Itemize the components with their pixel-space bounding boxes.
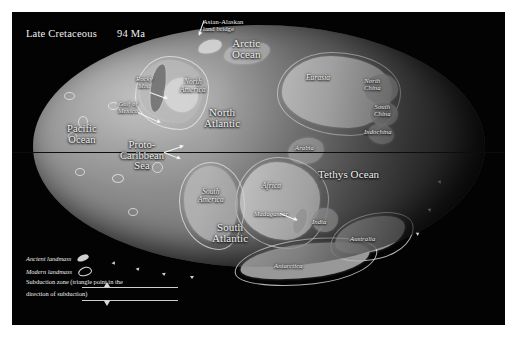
legend-label-subduction-line2: direction of subduction) bbox=[26, 290, 254, 297]
subduction-zone-line-down bbox=[82, 300, 178, 301]
continent-label-antarctica: Antarctica bbox=[274, 263, 303, 270]
island-arc bbox=[128, 208, 138, 216]
continent-label-australia: Australia bbox=[350, 236, 375, 243]
continent-label-africa: Africa bbox=[262, 182, 281, 190]
ocean-label-proto-caribbean-sea: Proto- Caribbean Sea bbox=[120, 140, 164, 172]
subduction-triangle-up-icon bbox=[104, 282, 110, 287]
coastline-africa bbox=[235, 157, 329, 249]
continent-label-north-china: North China bbox=[364, 78, 381, 91]
callout-label-rocky-mountains: Rocky Mts. bbox=[136, 75, 153, 90]
legend-row-subduction-zone: Subduction zone (triangle point in the d… bbox=[26, 278, 254, 297]
figure-page: Late Cretaceous 94 Ma Arctic Ocean North… bbox=[0, 0, 516, 341]
callout-label-gulf-of-mexico: Gulf of Mexico bbox=[118, 100, 138, 115]
legend-row-modern-landmass: Modern landmass bbox=[26, 265, 256, 277]
island-arc bbox=[75, 168, 85, 176]
legend-label-modern-landmass: Modern landmass bbox=[26, 268, 72, 275]
continent-label-arabia: Arabia bbox=[295, 145, 314, 152]
ancient-landmass-swatch-icon bbox=[77, 253, 90, 262]
ocean-label-pacific-ocean: Pacific Ocean bbox=[67, 124, 97, 145]
legend-label-ancient-landmass: Ancient landmass bbox=[26, 255, 71, 262]
continent-label-north-america: North America bbox=[180, 78, 206, 93]
continent-label-india: India bbox=[312, 219, 326, 226]
island-arc bbox=[64, 92, 75, 100]
subduction-zone-line-up bbox=[82, 287, 178, 288]
legend-label-subduction-line1: Subduction zone (triangle point in the bbox=[26, 278, 254, 285]
modern-landmass-swatch-icon bbox=[77, 265, 93, 277]
subduction-tick bbox=[416, 231, 421, 236]
callout-label-asian-alaskan-land-bridge: Asian-Alaskan land bridge bbox=[203, 18, 244, 33]
ocean-label-tethys-ocean: Tethys Ocean bbox=[318, 169, 379, 180]
legend: Ancient landmass Modern landmass Subduct… bbox=[26, 252, 256, 278]
continent-label-south-america: South America bbox=[198, 188, 224, 203]
title-age: 94 Ma bbox=[117, 29, 145, 40]
title-era: Late Cretaceous bbox=[26, 29, 97, 40]
subduction-triangle-down-icon bbox=[104, 301, 110, 306]
ocean-label-north-atlantic: North Atlantic bbox=[204, 107, 240, 129]
island-arc bbox=[112, 174, 124, 183]
map-plate: Late Cretaceous 94 Ma Arctic Ocean North… bbox=[12, 12, 505, 325]
ocean-label-arctic-ocean: Arctic Ocean bbox=[232, 38, 261, 60]
continent-label-indochina: Indochina bbox=[364, 129, 392, 136]
legend-row-ancient-landmass: Ancient landmass bbox=[26, 252, 256, 264]
continent-label-south-china: South China bbox=[374, 104, 391, 117]
ocean-label-south-atlantic: South Atlantic bbox=[212, 222, 248, 244]
continent-label-eurasia: Eurasia bbox=[306, 74, 330, 82]
equator-line bbox=[12, 152, 505, 153]
